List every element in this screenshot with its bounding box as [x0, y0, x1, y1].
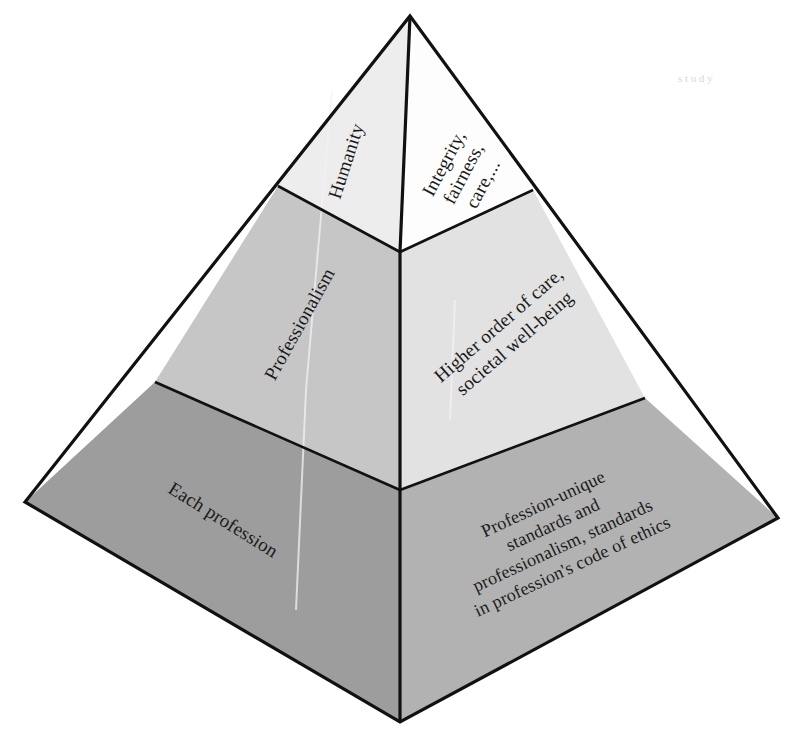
- pyramid-graphic: Humanity Integrity, fairness, care,... P…: [0, 0, 802, 739]
- scan-artifact-text: s t u d y: [678, 72, 713, 84]
- pyramid-diagram: Humanity Integrity, fairness, care,... P…: [0, 0, 802, 739]
